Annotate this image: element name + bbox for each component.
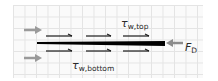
incoming-flow-arrow-bottom [24,54,42,62]
subscript: w,bottom [79,64,115,73]
subscript: D [191,46,197,55]
shear-arrows-top [46,34,149,36]
flat-plate [37,41,165,46]
flat-plate-diagram: τw,top τw,bottom FD [0,0,218,81]
shear-arrows-bottom [46,49,149,51]
drag-force-label: FD [185,38,197,55]
tau-symbol: τ [121,17,128,30]
incoming-flow-arrow-top [24,26,42,34]
drag-force-arrow [166,39,183,47]
subscript: w,top [128,22,149,31]
shear-stress-bottom-label: τw,bottom [72,56,114,73]
tau-symbol: τ [72,59,79,72]
shear-stress-top-label: τw,top [121,14,148,31]
